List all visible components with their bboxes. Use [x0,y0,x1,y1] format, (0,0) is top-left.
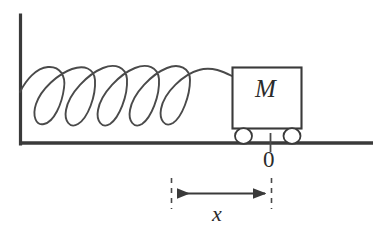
wheel-left [235,128,252,144]
wheel-right [284,128,301,144]
origin-label: 0 [263,148,275,171]
mass-label: M [255,76,276,101]
displacement-label: x [212,203,222,225]
diagram-canvas [0,0,379,239]
coil-spring [20,66,232,126]
physics-diagram: M 0 x [0,0,379,239]
